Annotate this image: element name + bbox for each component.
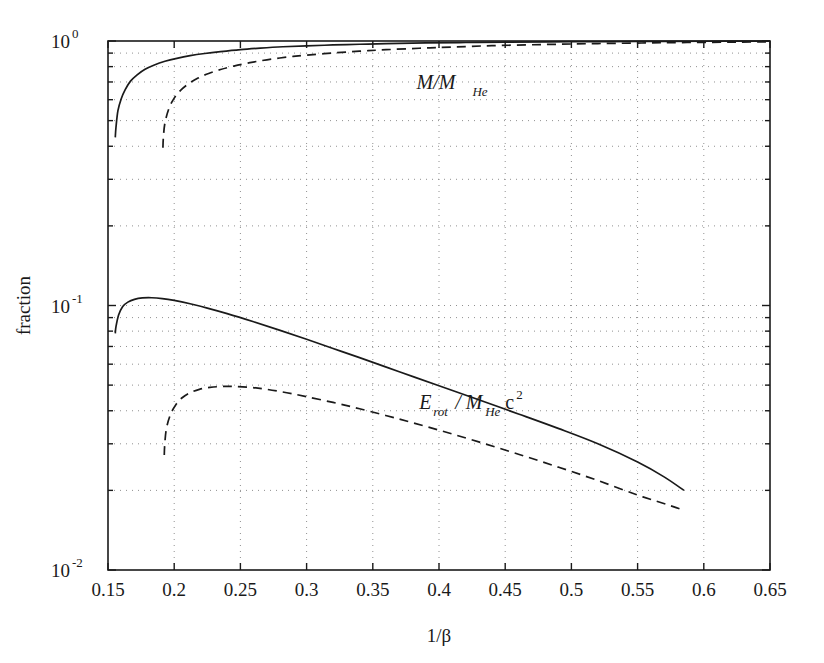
svg-text:He: He [484, 404, 500, 419]
svg-text:/ M: / M [454, 391, 484, 413]
svg-text:2: 2 [516, 387, 523, 402]
svg-text:-2: -2 [72, 555, 83, 570]
plot-background [0, 0, 824, 663]
x-tick-label: 0.15 [91, 579, 124, 600]
svg-text:10: 10 [51, 296, 70, 317]
svg-text:M/M: M/M [415, 71, 456, 93]
svg-text:He: He [471, 84, 487, 99]
svg-text:0: 0 [72, 26, 79, 41]
svg-text:c: c [505, 391, 514, 413]
x-tick-label: 0.65 [753, 579, 786, 600]
x-axis-label: 1/β [427, 625, 451, 646]
figure-container: 0.150.20.250.30.350.40.450.50.550.60.651… [0, 0, 824, 663]
x-tick-label: 0.6 [692, 579, 716, 600]
x-tick-label: 0.35 [356, 579, 389, 600]
svg-text:10: 10 [51, 560, 70, 581]
svg-text:-1: -1 [72, 291, 83, 306]
x-tick-label: 0.25 [224, 579, 257, 600]
x-tick-label: 0.2 [162, 579, 186, 600]
svg-text:E: E [418, 391, 431, 413]
y-axis-label: fraction [13, 275, 34, 335]
svg-text:rot: rot [433, 404, 448, 419]
x-tick-label: 0.45 [489, 579, 522, 600]
x-tick-label: 0.55 [621, 579, 654, 600]
x-tick-label: 0.3 [295, 579, 319, 600]
log-linear-plot: 0.150.20.250.30.350.40.450.50.550.60.651… [0, 0, 824, 663]
svg-text:10: 10 [51, 31, 70, 52]
x-tick-label: 0.4 [427, 579, 451, 600]
x-tick-label: 0.5 [560, 579, 584, 600]
